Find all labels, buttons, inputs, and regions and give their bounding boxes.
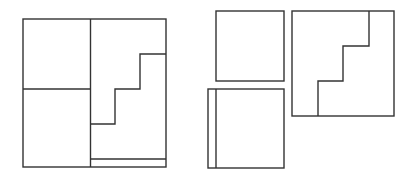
staircase-line-right bbox=[318, 11, 369, 116]
piece-square-bottom bbox=[208, 89, 284, 168]
outer-square bbox=[23, 19, 166, 167]
composite-square bbox=[23, 19, 166, 167]
square-bottom bbox=[208, 89, 284, 168]
piece-square-top bbox=[216, 11, 284, 81]
dissection-diagram bbox=[0, 0, 416, 183]
square-top bbox=[216, 11, 284, 81]
piece-staircase-square bbox=[292, 11, 394, 116]
staircase-line bbox=[91, 54, 167, 124]
diagram-canvas bbox=[0, 0, 416, 183]
